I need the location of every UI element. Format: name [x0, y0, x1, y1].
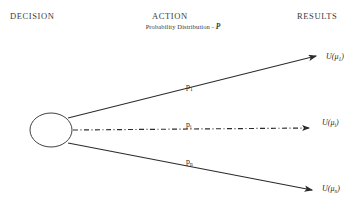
- branch-probability-bottom-subscript: n: [190, 161, 193, 167]
- branch-probability-top: p1: [186, 82, 193, 92]
- decision-node-ellipse: [30, 113, 72, 147]
- result-label-middle-close: ): [336, 118, 339, 127]
- branch-probability-middle: pi: [186, 120, 192, 130]
- result-label-top: U(μ1): [326, 52, 344, 62]
- result-label-bottom-close: ): [337, 184, 340, 193]
- result-label-top-text: U(μ: [326, 52, 338, 61]
- result-label-middle-text: U(μ: [322, 118, 334, 127]
- result-label-middle: U(μi): [322, 118, 339, 128]
- result-label-bottom-text: U(μ: [322, 184, 334, 193]
- branch-probability-middle-subscript: i: [190, 124, 192, 130]
- result-label-bottom: U(μn): [322, 184, 340, 194]
- branch-probability-bottom: pn: [186, 157, 193, 167]
- result-label-top-close: ): [341, 52, 344, 61]
- decision-tree-diagram: DECISION ACTION Probability Distribution…: [0, 0, 361, 212]
- branch-probability-top-subscript: 1: [190, 86, 193, 92]
- edge-layer: [0, 0, 361, 212]
- branch-line-bottom: [68, 143, 312, 190]
